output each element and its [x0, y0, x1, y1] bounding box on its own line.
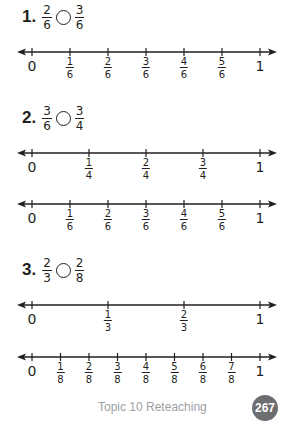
compare-answer-circle[interactable] — [56, 111, 71, 126]
tick-label-fraction: 23 — [180, 309, 188, 333]
fraction-left: 26 — [42, 4, 52, 31]
tick-label-fraction: 58 — [170, 361, 178, 385]
tick-label-fraction: 36 — [142, 208, 150, 232]
tick-label-fraction: 26 — [104, 208, 112, 232]
tick-label-fraction: 16 — [66, 208, 74, 232]
tick-label-whole: 0 — [28, 311, 37, 327]
number-line-sixths: 016263646561 — [0, 197, 291, 247]
tick-label-whole: 1 — [256, 363, 265, 379]
tick-label-whole: 1 — [256, 311, 265, 327]
problem-1-header: 1. 26 36 — [22, 4, 84, 30]
compare-answer-circle[interactable] — [56, 263, 71, 278]
compare-answer-circle[interactable] — [56, 10, 71, 25]
tick-label-fraction: 46 — [180, 56, 188, 80]
number-line-axis — [0, 298, 291, 318]
footer-topic-label: Topic 10 Reteaching — [98, 400, 207, 414]
tick-label-fraction: 28 — [85, 361, 93, 385]
fraction-right: 34 — [75, 105, 85, 132]
tick-label-whole: 1 — [256, 58, 265, 74]
tick-label-fraction: 78 — [227, 361, 235, 385]
tick-label-fraction: 24 — [142, 157, 150, 181]
tick-label-fraction: 68 — [199, 361, 207, 385]
tick-label-whole: 0 — [28, 363, 37, 379]
tick-label-fraction: 26 — [104, 56, 112, 80]
tick-label-fraction: 38 — [113, 361, 121, 385]
tick-label-fraction: 14 — [85, 157, 93, 181]
number-line-sixths: 016263646561 — [0, 45, 291, 95]
tick-label-whole: 1 — [256, 159, 265, 175]
tick-label-fraction: 13 — [104, 309, 112, 333]
tick-label-whole: 0 — [28, 210, 37, 226]
tick-label-fraction: 36 — [142, 56, 150, 80]
problem-number: 3. — [22, 260, 36, 280]
fraction-right: 28 — [75, 257, 85, 284]
page-number-badge: 267 — [252, 395, 278, 421]
number-line-eighths: 0182838485868781 — [0, 350, 291, 400]
tick-label-fraction: 46 — [180, 208, 188, 232]
tick-label-whole: 1 — [256, 210, 265, 226]
tick-label-fraction: 18 — [56, 361, 64, 385]
number-line-fourths: 01424341 — [0, 146, 291, 196]
tick-label-fraction: 34 — [199, 157, 207, 181]
tick-label-whole: 0 — [28, 159, 37, 175]
tick-label-fraction: 56 — [218, 56, 226, 80]
problem-3-header: 3. 23 28 — [22, 257, 84, 283]
problem-number: 1. — [22, 7, 36, 27]
tick-label-whole: 0 — [28, 58, 37, 74]
tick-label-fraction: 16 — [66, 56, 74, 80]
number-line-thirds: 013231 — [0, 298, 291, 348]
problem-2-header: 2. 36 34 — [22, 105, 84, 131]
fraction-right: 36 — [75, 4, 85, 31]
tick-label-fraction: 56 — [218, 208, 226, 232]
fraction-left: 36 — [42, 105, 52, 132]
problem-number: 2. — [22, 108, 36, 128]
fraction-left: 23 — [42, 257, 52, 284]
tick-label-fraction: 48 — [142, 361, 150, 385]
